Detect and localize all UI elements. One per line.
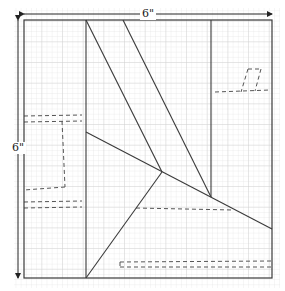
pattern-diagram (0, 0, 285, 291)
grid-major (24, 20, 272, 278)
width-label: 6" (140, 8, 156, 20)
height-label: 6" (10, 142, 26, 154)
